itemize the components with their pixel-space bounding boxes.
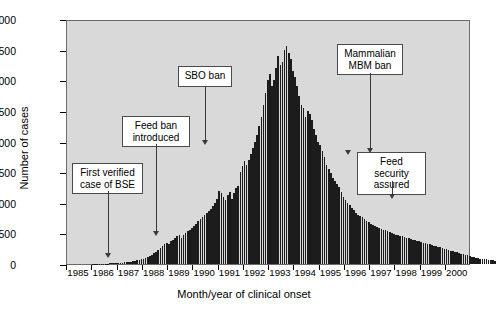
x-tick-label: 1991 <box>219 267 240 278</box>
x-axis-label: Month/year of clinical onset <box>0 288 488 300</box>
x-tick-mark <box>445 265 446 270</box>
x-tick-mark <box>167 265 168 270</box>
x-tick-mark <box>319 265 320 270</box>
annotation-arrow-mammalian-mbm-ban <box>370 73 371 149</box>
y-tick-label: 3000 <box>0 75 16 87</box>
x-tick-label: 1994 <box>295 267 316 278</box>
x-tick-mark <box>142 265 143 270</box>
annotation-arrow-feed-security-assured <box>392 181 393 195</box>
x-tick-label: 1997 <box>370 267 391 278</box>
x-tick-label: 2000 <box>446 267 467 278</box>
y-tick-label: 3500 <box>0 45 16 57</box>
x-tick-mark <box>344 265 345 270</box>
annotation-arrow-sbo-ban <box>205 87 206 141</box>
x-tick-mark <box>369 265 370 270</box>
annotation-arrowhead-feed-ban-introduced <box>153 231 159 236</box>
x-tick-mark <box>293 265 294 270</box>
x-tick-label: 1995 <box>320 267 341 278</box>
annotation-feed-ban-introduced: Feed ban introduced <box>122 116 190 147</box>
x-tick-label: 1999 <box>421 267 442 278</box>
x-tick-mark <box>394 265 395 270</box>
annotation-arrowhead-first-verified-case <box>105 253 111 258</box>
annotation-arrowhead-mammalian-lower <box>345 150 351 155</box>
x-tick-label: 1987 <box>118 267 139 278</box>
x-tick-mark <box>243 265 244 270</box>
x-tick-label: 1989 <box>168 267 189 278</box>
x-tick-label: 1998 <box>396 267 417 278</box>
y-tick-label: 500 <box>0 228 16 240</box>
x-tick-mark <box>117 265 118 270</box>
annotation-mammalian-mbm-ban: Mammalian MBM ban <box>337 44 403 75</box>
y-axis-label: Number of cases <box>18 88 30 208</box>
annotation-arrowhead-feed-security-assured <box>389 194 395 199</box>
x-tick-label: 1988 <box>143 267 164 278</box>
x-tick-mark <box>420 265 421 270</box>
y-tick-label: 2000 <box>0 137 16 149</box>
y-tick-label: 2500 <box>0 106 16 118</box>
x-tick-label: 1985 <box>67 267 88 278</box>
x-tick-mark <box>268 265 269 270</box>
x-tick-mark <box>66 265 67 270</box>
x-tick-mark <box>218 265 219 270</box>
x-tick-mark <box>192 265 193 270</box>
x-tick-mark <box>91 265 92 270</box>
y-tick-label: 1000 <box>0 198 16 210</box>
x-tick-label: 1990 <box>194 267 215 278</box>
y-tick-label: 0 <box>0 259 16 271</box>
annotation-arrowhead-sbo-ban <box>202 140 208 145</box>
annotation-arrow-feed-ban-introduced <box>156 144 157 232</box>
x-tick-label: 1996 <box>345 267 366 278</box>
x-tick-label: 1986 <box>93 267 114 278</box>
annotation-arrow-first-verified-case <box>108 191 109 254</box>
x-tick-label: 1993 <box>269 267 290 278</box>
y-tick-label: 1500 <box>0 167 16 179</box>
x-tick-label: 1992 <box>244 267 265 278</box>
annotation-sbo-ban: SBO ban <box>178 66 232 87</box>
annotation-first-verified-case: First verified case of BSE <box>72 163 143 194</box>
y-tick-label: 4000 <box>0 14 16 26</box>
